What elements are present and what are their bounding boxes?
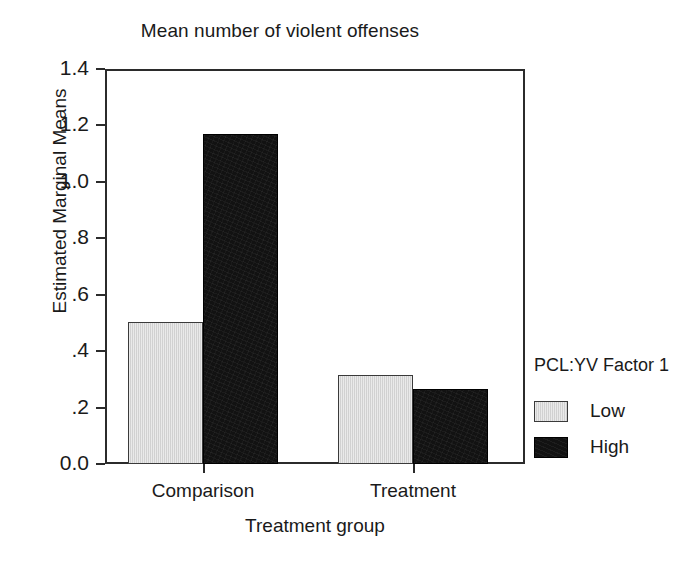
y-tick-label: .6: [71, 282, 89, 306]
y-tick-mark: [96, 124, 105, 126]
legend-label-low: Low: [590, 400, 625, 422]
bars-layer: [105, 69, 525, 464]
y-tick-mark: [96, 463, 105, 465]
y-tick-mark: [96, 237, 105, 239]
bar-comparison-low[interactable]: [128, 322, 203, 464]
bar-treatment-high[interactable]: [413, 389, 488, 464]
y-tick-mark: [96, 181, 105, 183]
bar-treatment-low[interactable]: [338, 375, 413, 464]
y-tick-label: .2: [71, 395, 89, 419]
y-tick-label: .8: [71, 225, 89, 249]
y-tick-mark: [96, 68, 105, 70]
legend: PCL:YV Factor 1 Low High: [534, 355, 698, 465]
bar-comparison-high[interactable]: [203, 134, 278, 464]
x-axis-label-treatment: Treatment: [370, 480, 456, 502]
y-tick-mark: [96, 407, 105, 409]
chart-figure: Mean number of violent offenses Estimate…: [0, 0, 698, 575]
chart-title: Mean number of violent offenses: [0, 20, 560, 42]
x-tick-mark-comparison: [203, 464, 205, 473]
x-axis-title: Treatment group: [105, 515, 525, 537]
legend-label-high: High: [590, 436, 629, 458]
legend-item-low[interactable]: Low: [534, 393, 698, 429]
legend-item-high[interactable]: High: [534, 429, 698, 465]
x-axis-label-comparison: Comparison: [152, 480, 254, 502]
y-tick-label: 0.0: [60, 451, 89, 475]
y-axis-title: Estimated Marginal Means: [49, 1, 71, 401]
legend-title: PCL:YV Factor 1: [534, 355, 698, 376]
legend-swatch-low-icon: [534, 401, 568, 422]
y-tick-mark: [96, 350, 105, 352]
legend-swatch-high-icon: [534, 437, 568, 458]
y-tick-mark: [96, 294, 105, 296]
x-tick-mark-treatment: [413, 464, 415, 473]
y-tick-label: .4: [71, 338, 89, 362]
